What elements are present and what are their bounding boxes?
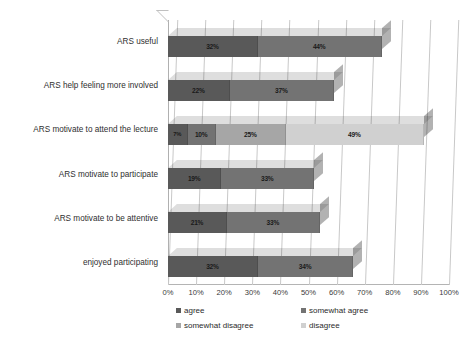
chart-container: ARS usefulARS help feeling more involved… [0, 0, 465, 347]
gridline [280, 20, 290, 285]
legend-item[interactable]: somewhat agree [301, 306, 368, 315]
gridline [365, 20, 375, 285]
bar-stack: 21%33% [168, 212, 320, 233]
x-tick-label: 30% [245, 288, 260, 297]
bar-value-label: 22% [192, 87, 205, 94]
bar-segment: 33% [227, 212, 320, 233]
bar-value-label: 34% [299, 263, 312, 270]
gridline [252, 20, 262, 285]
bar-stack: 19%33% [168, 168, 314, 189]
x-tick-label: 20% [217, 288, 232, 297]
bar-top-face [168, 116, 433, 124]
y-tick-label: ARS useful [117, 37, 158, 47]
y-tick-label: ARS help feeling more involved [44, 81, 158, 91]
bar-end-cap [382, 20, 391, 49]
plot-area: 32%44%22%37%7%10%25%49%19%33%21%33%32%34… [168, 20, 449, 285]
bar-value-label: 32% [206, 263, 219, 270]
bar-value-label: 32% [206, 43, 219, 50]
bar-stack: 32%44% [168, 36, 382, 57]
bar-segment: 49% [286, 124, 424, 145]
y-tick-label: ARS motivate to attend the lecture [33, 125, 158, 135]
bar-value-label: 21% [191, 219, 204, 226]
y-tick-label: ARS motivate to be attentive [54, 214, 158, 224]
bar-top-face [168, 160, 323, 168]
y-axis-category-labels: ARS usefulARS help feeling more involved… [0, 20, 163, 285]
bar-end-cap [334, 64, 343, 93]
bar-value-label: 44% [313, 43, 326, 50]
gridline [224, 20, 234, 285]
bar-value-label: 7% [173, 131, 181, 137]
bar-value-label: 33% [261, 175, 274, 182]
gridline [449, 20, 459, 285]
x-tick-label: 90% [413, 288, 428, 297]
gridline [421, 20, 431, 285]
bar-end-cap [353, 241, 362, 270]
gridline [309, 20, 319, 285]
bar-end-cap [314, 152, 323, 181]
legend-label: agree [184, 306, 204, 315]
bar-segment: 19% [168, 168, 221, 189]
bar-value-label: 33% [267, 219, 280, 226]
legend-swatch-icon [301, 323, 306, 328]
legend-label: somewhat agree [309, 306, 368, 315]
legend-label: disagree [309, 321, 340, 330]
bar-value-label: 19% [188, 175, 201, 182]
x-tick-label: 50% [301, 288, 316, 297]
bar-segment: 22% [168, 80, 230, 101]
gridline [196, 20, 206, 285]
bar-value-label: 25% [244, 131, 257, 138]
bar-segment: 44% [258, 36, 382, 57]
x-axis-tick-labels: 0%10%20%30%40%50%60%70%80%90%100% [150, 288, 465, 302]
bar-top-face [168, 204, 329, 212]
x-tick-label: 100% [439, 288, 458, 297]
gridline [337, 20, 347, 285]
chart-legend: agreesomewhat agreesomewhat disagreedisa… [176, 306, 465, 340]
bar-value-label: 10% [195, 131, 208, 138]
legend-swatch-icon [176, 308, 181, 313]
bar-top-face [168, 28, 390, 36]
bar-end-cap [424, 108, 433, 137]
bar-segment: 21% [168, 212, 227, 233]
legend-item[interactable]: disagree [301, 321, 340, 330]
x-tick-label: 80% [385, 288, 400, 297]
legend-item[interactable]: agree [176, 306, 204, 315]
bar-stack: 32%34% [168, 256, 353, 277]
x-tick-label: 60% [329, 288, 344, 297]
bar-value-label: 49% [348, 131, 361, 138]
x-tick-label: 0% [163, 288, 174, 297]
y-tick-label: enjoyed participating [83, 258, 158, 268]
bar-segment: 34% [258, 256, 354, 277]
bar-end-cap [320, 196, 329, 225]
bar-segment: 10% [188, 124, 216, 145]
bar-stack: 7%10%25%49% [168, 124, 424, 145]
legend-swatch-icon [301, 308, 306, 313]
bar-stack: 22%37% [168, 80, 334, 101]
legend-item[interactable]: somewhat disagree [176, 321, 253, 330]
y-tick-label: ARS motivate to participate [59, 170, 158, 180]
bar-segment: 37% [230, 80, 334, 101]
x-tick-label: 10% [188, 288, 203, 297]
bar-segment: 33% [221, 168, 314, 189]
bar-value-label: 37% [275, 87, 288, 94]
x-tick-label: 40% [273, 288, 288, 297]
bar-segment: 25% [216, 124, 286, 145]
gridline [393, 20, 403, 285]
bar-segment: 32% [168, 256, 258, 277]
bar-segment: 32% [168, 36, 258, 57]
legend-label: somewhat disagree [184, 321, 253, 330]
gridline [168, 20, 178, 285]
x-tick-label: 70% [357, 288, 372, 297]
bar-segment: 7% [168, 124, 188, 145]
legend-swatch-icon [176, 323, 181, 328]
